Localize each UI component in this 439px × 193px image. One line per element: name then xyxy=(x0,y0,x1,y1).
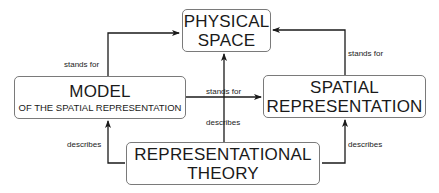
node-representational-theory: REPRESENTATIONAL THEORY xyxy=(126,142,320,185)
physical-space-line1: PHYSICAL xyxy=(184,13,270,30)
arrow-theory-to-spatial xyxy=(322,120,345,163)
arrow-model-to-physical xyxy=(108,33,179,76)
representational-theory-line2: THEORY xyxy=(187,165,259,182)
spatial-representation-line2: REPRESENTATION xyxy=(266,98,422,115)
node-spatial-representation: SPATIAL REPRESENTATION xyxy=(263,75,426,118)
model-subtitle: OF THE SPATIAL REPRESENTATION xyxy=(19,103,182,113)
label-model-to-physical: stands for xyxy=(64,60,99,69)
label-model-to-spatial: stands for xyxy=(206,87,241,96)
physical-space-line2: SPACE xyxy=(198,32,255,49)
label-theory-to-physical: describes xyxy=(206,118,240,127)
representational-theory-line1: REPRESENTATIONAL xyxy=(134,146,311,163)
node-physical-space: PHYSICAL SPACE xyxy=(182,9,271,52)
label-theory-to-spatial: describes xyxy=(348,140,382,149)
arrow-theory-to-model xyxy=(108,121,125,163)
node-model: MODEL OF THE SPATIAL REPRESENTATION xyxy=(14,76,186,119)
arrow-spatial-to-physical xyxy=(273,30,345,75)
model-title: MODEL xyxy=(69,83,130,100)
spatial-representation-line1: SPATIAL xyxy=(310,79,379,96)
label-theory-to-model: describes xyxy=(67,140,101,149)
label-spatial-to-physical: stands for xyxy=(348,49,383,58)
